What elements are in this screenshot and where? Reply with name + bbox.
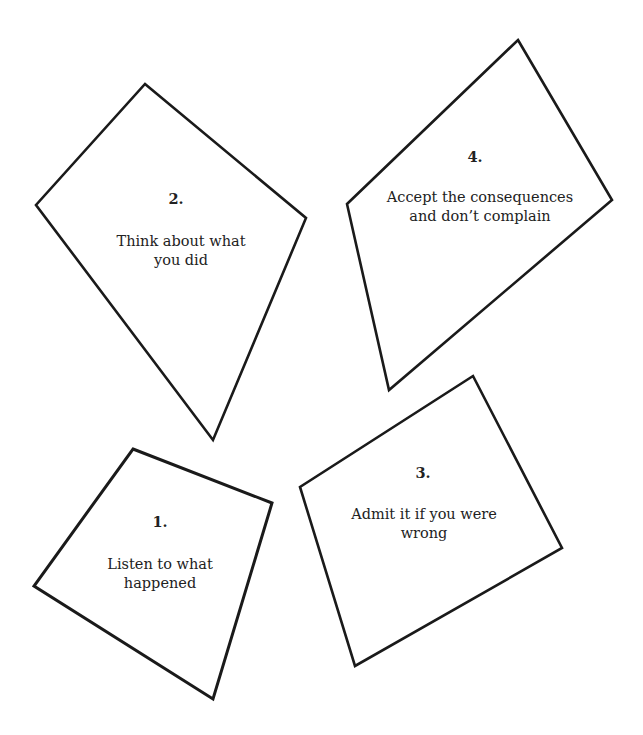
card-2-text-line-1: Think about what xyxy=(116,232,245,250)
card-4-number: 4. xyxy=(467,148,482,165)
card-3-text-line-1: Admit it if you were xyxy=(351,505,497,523)
card-2-number: 2. xyxy=(168,190,183,207)
card-2-text-line-2: you did xyxy=(154,251,208,269)
kite-diagram xyxy=(0,0,643,735)
card-3-number: 3. xyxy=(415,464,430,481)
card-1-number: 1. xyxy=(152,513,167,530)
card-1-text-line-1: Listen to what xyxy=(107,555,212,573)
card-1-text-line-2: happened xyxy=(124,574,196,592)
card-4-text-line-2: and don’t complain xyxy=(409,207,550,225)
card-4-text-line-1: Accept the consequences xyxy=(387,188,573,206)
card-3-text-line-2: wrong xyxy=(401,524,448,542)
